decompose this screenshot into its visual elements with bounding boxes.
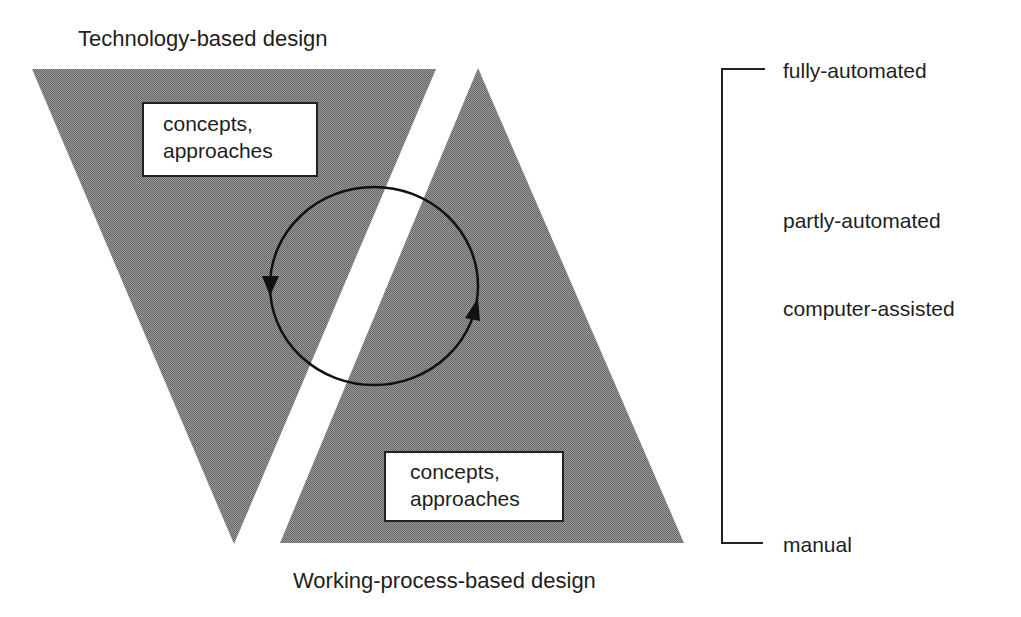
working-process-title: Working-process-based design: [293, 569, 596, 593]
bottom-box-line1: concepts,: [410, 458, 562, 485]
bottom-concepts-box: concepts, approaches: [384, 451, 564, 522]
scale-label-manual: manual: [783, 533, 852, 557]
top-concepts-box: concepts, approaches: [142, 102, 318, 177]
top-box-line1: concepts,: [163, 110, 316, 137]
bottom-box-line2: approaches: [410, 485, 562, 512]
top-box-line2: approaches: [163, 137, 316, 164]
scale-label-fully-automated: fully-automated: [783, 59, 927, 83]
technology-title: Technology-based design: [78, 27, 328, 51]
scale-bracket: [722, 68, 765, 544]
scale-label-partly-automated: partly-automated: [783, 209, 941, 233]
scale-label-computer-assisted: computer-assisted: [783, 297, 955, 321]
